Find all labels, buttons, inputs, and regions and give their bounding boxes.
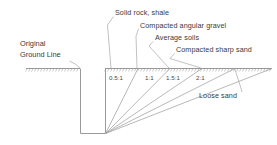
leader-average-soils — [149, 42, 169, 69]
soil-label-compacted-sharp-sand: Compacted sharp sand — [176, 46, 252, 55]
leader-solid-rock-shale — [108, 17, 114, 69]
leader-original-ground-line — [70, 61, 81, 68]
slope-ratio-0-5-1: 0.5:1 — [109, 74, 123, 81]
soil-label-average-soils: Average soils — [155, 34, 199, 43]
leader-loose-sand — [235, 68, 243, 92]
ground-line-left — [26, 69, 81, 72]
soil-label-loose-sand: Loose sand — [199, 92, 237, 101]
original-ground-line-label-line1: Original — [20, 39, 45, 48]
slope-ratio-1-5-1: 1.5:1 — [166, 74, 180, 81]
ground-line-right — [105, 69, 273, 72]
trench-outline — [81, 69, 106, 134]
soil-label-solid-rock-shale: Solid rock, shale — [115, 9, 169, 18]
slope-ratio-1-1: 1:1 — [145, 74, 154, 81]
trench-slope-diagram — [0, 0, 277, 145]
leader-compacted-angular-gravel — [136, 29, 139, 68]
leader-compacted-sharp-sand — [170, 54, 201, 69]
original-ground-line-label-line2: Ground Line — [20, 50, 61, 59]
diagram-canvas: Original Ground Line Solid rock, shale C… — [0, 0, 277, 145]
slope-ratio-2-1: 2:1 — [196, 74, 205, 81]
soil-label-compacted-angular-gravel: Compacted angular gravel — [140, 22, 226, 31]
slope-line-3-1 — [106, 69, 273, 134]
slope-line-fan — [106, 69, 273, 134]
